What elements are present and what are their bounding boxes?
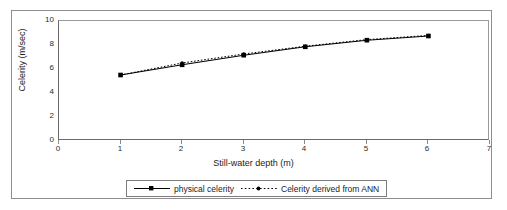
data-point xyxy=(118,73,123,78)
data-point xyxy=(241,53,246,58)
legend-label-ann-celerity: Celerity derived from ANN xyxy=(281,184,379,194)
series-line-ann xyxy=(121,35,429,75)
y-tick-label-10: 10 xyxy=(32,16,54,24)
series-markers-physical xyxy=(118,34,430,78)
series-markers-ann xyxy=(119,34,430,77)
x-tick-label-3: 3 xyxy=(233,145,253,153)
legend-swatch-solid-line-icon xyxy=(134,184,170,193)
x-tick-label-6: 6 xyxy=(417,145,437,153)
data-point xyxy=(426,34,431,39)
y-axis-title: Celerity (m/sec) xyxy=(17,0,27,120)
y-tick-label-0: 0 xyxy=(32,136,54,144)
x-tick-label-4: 4 xyxy=(294,145,314,153)
y-tick-label-6: 6 xyxy=(32,64,54,72)
y-tick-label-4: 4 xyxy=(32,88,54,96)
data-point xyxy=(180,63,185,68)
plot-area xyxy=(58,20,489,140)
data-point xyxy=(365,38,370,43)
x-axis-title: Still-water depth (m) xyxy=(0,158,507,168)
x-tick-label-2: 2 xyxy=(171,145,191,153)
legend-entry-physical-celerity: physical celerity xyxy=(134,184,234,194)
x-tick-label-1: 1 xyxy=(110,145,130,153)
y-axis-tick-labels: 10 8 6 4 2 0 xyxy=(30,0,54,210)
x-tick-label-0: 0 xyxy=(48,145,68,153)
legend-label-physical-celerity: physical celerity xyxy=(174,184,234,194)
data-point xyxy=(303,45,308,50)
y-tick-label-2: 2 xyxy=(32,112,54,120)
legend-swatch-dotted-line-icon xyxy=(241,184,277,193)
x-tick-label-7: 7 xyxy=(479,145,499,153)
chart-legend: physical celerity Celerity derived from … xyxy=(126,180,387,197)
y-tick-label-8: 8 xyxy=(32,40,54,48)
chart-figure: Celerity (m/sec) 10 8 6 4 2 0 0 1 2 3 4 … xyxy=(0,0,507,210)
series-line-physical xyxy=(121,36,429,75)
x-tick-label-5: 5 xyxy=(356,145,376,153)
legend-entry-ann-celerity: Celerity derived from ANN xyxy=(241,184,379,194)
series-canvas xyxy=(59,21,490,141)
